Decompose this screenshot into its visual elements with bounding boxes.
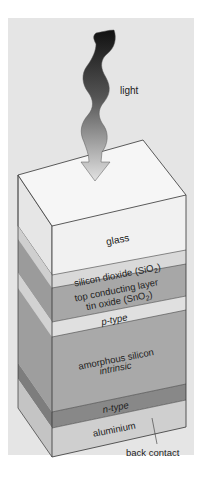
solar-cell-diagram: light glass silicon dioxide (SiO2) top c… [0,0,202,480]
diagram-canvas: light glass silicon dioxide (SiO2) top c… [0,0,202,480]
back-contact-label: back contact [126,447,180,458]
light-label: light [120,85,139,96]
